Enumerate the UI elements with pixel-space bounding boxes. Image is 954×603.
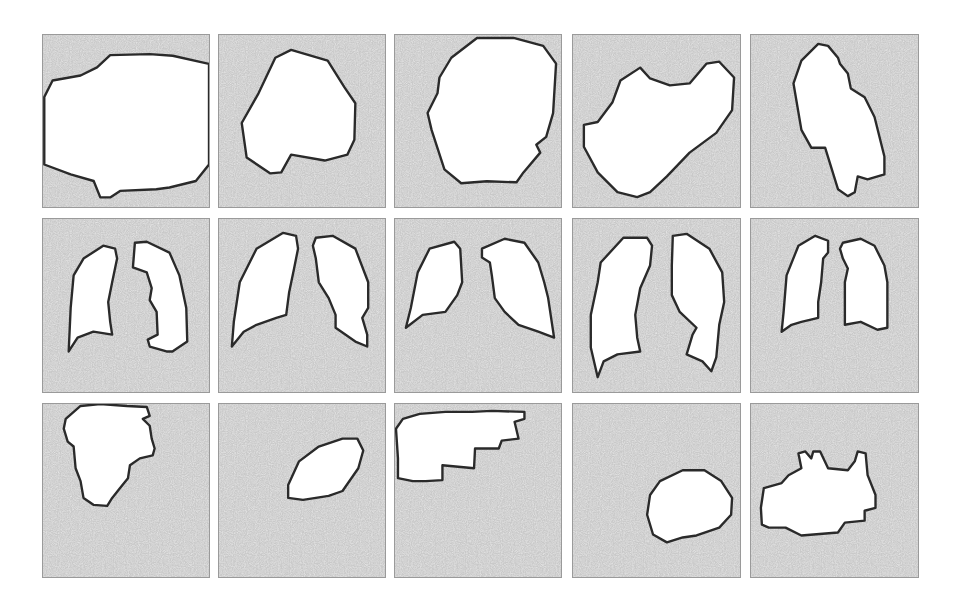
mask-image: [573, 219, 740, 392]
mask-tile-r3c4: round mask bottom-right: [572, 403, 741, 578]
mask-tile-r2c4: lung pair mask: [572, 218, 741, 393]
mask-image: [751, 35, 918, 207]
mask-image: [751, 219, 918, 392]
mask-tile-r2c3: lung pair mask: [394, 218, 562, 393]
mask-image: [219, 219, 385, 392]
mask-tile-r2c5: lung pair mask: [750, 218, 919, 393]
mask-tile-r3c5: irregular jagged mask: [750, 403, 919, 578]
mask-image: [43, 219, 209, 392]
mask-tile-r2c1: lung pair mask: [42, 218, 210, 393]
mask-image: [573, 404, 740, 577]
mask-image: [395, 219, 561, 392]
mask-tile-r3c1: irregular blob mask top-left: [42, 403, 210, 578]
mask-image: [219, 404, 385, 577]
mask-image: [395, 404, 561, 577]
mask-image: [573, 35, 740, 207]
mask-image: [219, 35, 385, 207]
mask-tile-r3c2: small oval mask: [218, 403, 386, 578]
mask-image: [43, 35, 209, 207]
mask-tile-r1c4: single kidney-like mask: [572, 34, 741, 208]
mask-image: [395, 35, 561, 207]
mask-tile-r1c3: single oval mask: [394, 34, 562, 208]
mask-image: [43, 404, 209, 577]
mask-image: [751, 404, 918, 577]
mask-tile-r1c5: single elongated tilted mask: [750, 34, 919, 208]
mask-tile-r2c2: lung pair mask: [218, 218, 386, 393]
mask-tile-r1c1: single large blob mask: [42, 34, 210, 208]
mask-tile-r1c2: single rounded polygon mask: [218, 34, 386, 208]
mask-tile-r3c3: stepped irregular mask top: [394, 403, 562, 578]
